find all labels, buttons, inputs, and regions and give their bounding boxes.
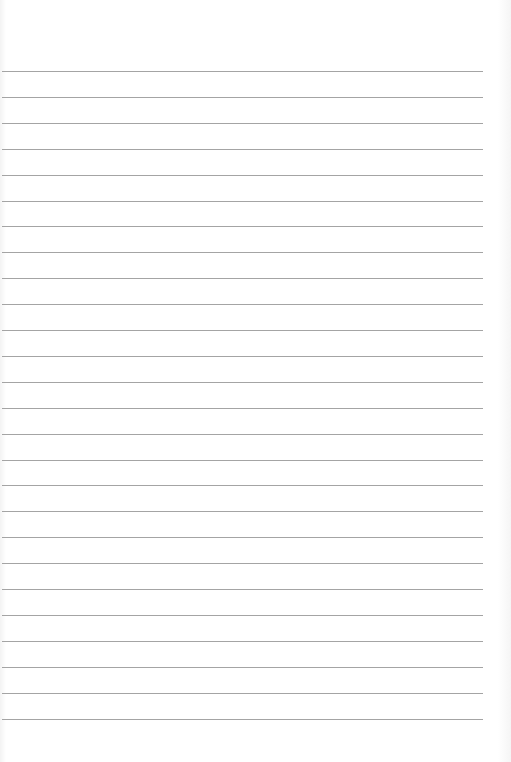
ruled-line	[2, 641, 483, 642]
ruled-line	[2, 97, 483, 98]
ruled-line	[2, 434, 483, 435]
ruled-line	[2, 563, 483, 564]
ruled-line	[2, 382, 483, 383]
ruled-line	[2, 123, 483, 124]
ruled-line	[2, 149, 483, 150]
ruled-line	[2, 356, 483, 357]
ruled-line	[2, 330, 483, 331]
ruled-line	[2, 511, 483, 512]
ruled-line	[2, 201, 483, 202]
ruled-line	[2, 537, 483, 538]
ruled-line	[2, 304, 483, 305]
ruled-line	[2, 719, 483, 720]
ruled-line	[2, 667, 483, 668]
ruled-line	[2, 485, 483, 486]
ruled-line	[2, 175, 483, 176]
ruled-line	[2, 278, 483, 279]
ruled-line	[2, 460, 483, 461]
ruled-line	[2, 693, 483, 694]
ruled-line	[2, 71, 483, 72]
ruled-line	[2, 408, 483, 409]
ruled-line	[2, 252, 483, 253]
ruled-line	[2, 589, 483, 590]
lined-paper-page	[0, 0, 511, 762]
ruled-line	[2, 226, 483, 227]
ruled-line	[2, 615, 483, 616]
